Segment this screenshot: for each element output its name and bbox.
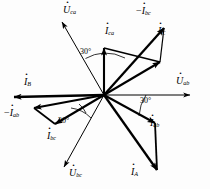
label-i-b-sub: B (27, 80, 31, 87)
label-u-ab: Uab (176, 76, 189, 87)
phase-current-phasors (34, 48, 160, 124)
construction-line-ca-to-negbc (104, 48, 160, 62)
label-neg-i-ab-sub: ab (13, 111, 19, 118)
label-neg-i-bc: −Ibc (136, 6, 151, 17)
label-neg-i-ab: −Iab (4, 108, 19, 119)
angle-label-lower-left: 30° (58, 117, 69, 125)
label-i-c: IC (158, 26, 165, 37)
label-i-bc: Ibc (47, 131, 56, 142)
construction-line-ab-to-ia (155, 123, 157, 170)
angle-label-top: 30° (80, 48, 91, 56)
label-i-c-sub: C (161, 29, 165, 36)
label-u-ca-sub: ca (70, 8, 76, 15)
label-i-a: IA (131, 167, 138, 178)
phasor-line-neg-i-bc (104, 62, 160, 95)
phasor-diagram-figure: Uca Ica −Ibc IC IB Uab −Iab Ibc Iab Ubc … (0, 0, 210, 189)
label-i-ca: Ica (105, 26, 114, 37)
angle-arc-top-right (104, 53, 125, 58)
label-u-bc: Ubc (69, 168, 82, 179)
label-neg-i-bc-sub: bc (145, 9, 151, 16)
label-u-ab-sub: ab (183, 79, 189, 86)
label-u-ca: Uca (63, 5, 76, 16)
label-i-b: IB (24, 77, 31, 88)
angle-label-right: 30° (140, 97, 151, 105)
label-i-ab-sub: ab (153, 121, 159, 128)
label-i-bc-sub: bc (50, 134, 56, 141)
label-i-ca-sub: ca (108, 29, 114, 36)
label-i-ab: Iab (150, 118, 159, 129)
label-i-a-sub: A (134, 170, 138, 177)
construction-line-negab-to-ibc (34, 108, 55, 124)
phasor-line-u-ca (62, 22, 104, 95)
label-u-bc-sub: bc (76, 171, 82, 178)
